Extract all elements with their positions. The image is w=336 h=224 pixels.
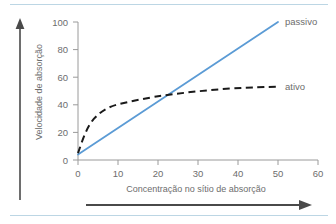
y-tick-label-60: 60	[57, 72, 68, 83]
figure-container: 0 20 40 60 80 100 0 10 20 30 40 50 60 Co…	[0, 0, 336, 224]
y-tick-label-20: 20	[57, 127, 68, 138]
y-tick-label-40: 40	[57, 99, 68, 110]
series-label-ativo: ativo	[285, 81, 305, 92]
x-tick-label-40: 40	[233, 168, 244, 179]
top-divider-rule	[10, 4, 328, 5]
x-axis-ticks	[78, 160, 318, 165]
y-tick-label-100: 100	[52, 17, 68, 28]
y-axis-title: Velocidade de absorção	[34, 44, 44, 140]
y-axis-ticks	[73, 22, 78, 160]
x-tick-label-60: 60	[313, 168, 324, 179]
right-arrow-icon	[86, 200, 312, 210]
series-label-passivo: passivo	[285, 16, 317, 27]
chart-svg: 0 20 40 60 80 100 0 10 20 30 40 50 60 Co…	[0, 0, 336, 224]
x-tick-label-0: 0	[75, 168, 80, 179]
x-tick-label-50: 50	[273, 168, 284, 179]
y-tick-label-80: 80	[57, 44, 68, 55]
bottom-divider-rule	[10, 215, 328, 216]
x-tick-label-30: 30	[193, 168, 204, 179]
x-tick-label-10: 10	[113, 168, 124, 179]
up-arrow-icon	[16, 18, 25, 200]
y-tick-label-0: 0	[63, 155, 68, 166]
series-line-ativo	[78, 87, 278, 153]
x-tick-label-20: 20	[153, 168, 164, 179]
x-axis-title: Concentração no sítio de absorção	[126, 184, 266, 194]
